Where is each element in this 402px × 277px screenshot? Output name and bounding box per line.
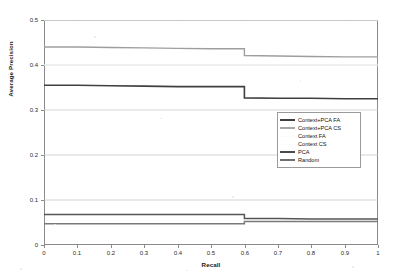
scan-speck [160,118,162,119]
y-tick-label: 0 [16,242,38,249]
legend-swatch-icon [280,119,295,121]
y-tick-label: 0.4 [16,62,38,69]
x-tick-mark [111,245,112,248]
x-tick-label: 0.3 [134,250,154,257]
legend-item[interactable]: Random [280,156,358,164]
x-tick-mark [378,245,379,248]
scan-speck [186,270,188,271]
x-tick-label: 0.6 [235,250,255,257]
x-tick-label: 0.9 [335,250,355,257]
x-tick-mark [144,245,145,248]
x-axis-title: Recall [44,261,378,268]
x-tick-mark [178,245,179,248]
x-tick-label: 0.8 [301,250,321,257]
legend-item[interactable]: Context+PCA FA [280,116,358,124]
y-tick-label: 0.1 [16,197,38,204]
legend-item-label: Context CS [298,140,327,148]
legend-item-label: Random [298,156,319,164]
scan-speck [352,266,354,268]
x-tick-label: 0.2 [101,250,121,257]
x-tick-mark [345,245,346,248]
legend-item-label: Context FA [298,132,326,140]
x-tick-mark [245,245,246,248]
x-tick-mark [44,245,45,248]
scan-speck [54,224,56,225]
x-tick-mark [311,245,312,248]
legend-swatch-icon [280,159,295,161]
x-tick-label: 0.1 [67,250,87,257]
series-line [44,214,378,219]
legend-item-label: Context+PCA FA [298,116,340,124]
x-tick-mark [278,245,279,248]
legend-swatch-icon [280,136,295,137]
line-chart: Average Precision 0.5 0.4 0.3 0.2 0.1 0 … [0,0,402,277]
legend-item-label: Context+PCA CS [298,124,341,132]
y-tick-label: 0.5 [16,17,38,24]
legend-item-label: PCA [298,148,310,156]
scan-speck [20,268,22,270]
legend-swatch-icon [280,151,295,153]
legend-swatch-icon [280,127,295,129]
x-tick-label: 0.5 [201,250,221,257]
legend-item[interactable]: PCA [280,148,358,156]
y-tick-label: 0.2 [16,152,38,159]
scan-speck [232,196,234,198]
legend-item[interactable]: Context CS [280,140,358,148]
y-axis-title: Average Precision [4,24,18,114]
x-tick-label: 0.4 [168,250,188,257]
legend-item[interactable]: Context FA [280,132,358,140]
y-tick-label: 0.3 [16,107,38,114]
series-line [44,85,378,99]
x-tick-label: 0.7 [268,250,288,257]
legend-swatch-icon [280,144,295,145]
legend[interactable]: Context+PCA FA Context+PCA CS Context FA… [277,112,361,168]
scan-speck [300,80,301,82]
x-tick-label: 1 [368,250,388,257]
x-tick-mark [211,245,212,248]
legend-item[interactable]: Context+PCA CS [280,124,358,132]
x-tick-label: 0 [34,250,54,257]
series-line [44,222,378,224]
scan-speck [94,36,96,38]
x-tick-mark [77,245,78,248]
